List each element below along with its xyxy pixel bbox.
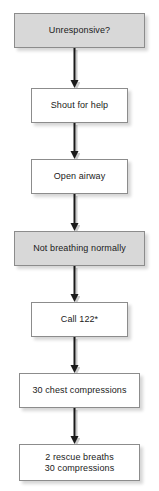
flow-node-call-122: Call 122* [31, 302, 128, 337]
flow-arrow [69, 123, 80, 159]
flow-node-chest-compressions: 30 chest compressions [19, 373, 140, 408]
flow-arrow [69, 337, 80, 373]
flow-node-label: Unresponsive? [47, 25, 112, 36]
flow-node-label: Not breathing normally [31, 243, 128, 254]
flow-node-label: 2 rescue breaths 30 compressions [43, 452, 117, 474]
flow-node-label: Shout for help [49, 100, 110, 111]
flow-node-label: Call 122* [59, 314, 100, 325]
flow-node-label: Open airway [52, 171, 108, 182]
flow-node-label: 30 chest compressions [30, 385, 128, 396]
flow-node-rescue-breaths: 2 rescue breaths 30 compressions [19, 444, 140, 481]
flow-arrow [69, 194, 80, 231]
flow-node-not-breathing-normally: Not breathing normally [14, 231, 145, 266]
flow-arrow [69, 266, 80, 302]
flow-node-unresponsive: Unresponsive? [14, 13, 145, 48]
flow-node-shout-for-help: Shout for help [31, 88, 128, 123]
flow-node-open-airway: Open airway [31, 159, 128, 194]
flow-arrow [69, 48, 80, 88]
flow-arrow [69, 408, 80, 444]
flowchart-diagram: Unresponsive?Shout for helpOpen airwayNo… [0, 0, 159, 491]
